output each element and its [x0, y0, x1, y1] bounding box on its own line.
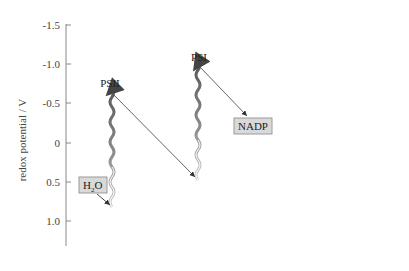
psi-excitation-wave [196, 64, 200, 180]
tick-label: 0.5 [46, 176, 60, 188]
h2o-to-psii-arrow [97, 194, 110, 205]
psii-excitation-wave [110, 90, 114, 207]
psii-label: PSII [100, 77, 120, 89]
nadp-label: NADP [238, 120, 268, 132]
psi-to-nadp-arrow [200, 67, 247, 116]
tick-label: 1.0 [46, 215, 60, 227]
y-axis-title: redox potential / V [16, 99, 28, 182]
tick-label: -1.0 [43, 58, 61, 70]
nadp-box: NADP [234, 118, 272, 134]
tick-label: 0 [55, 137, 61, 149]
h2o-box: H2O [79, 177, 107, 194]
z-scheme-diagram: -1.5 -1.0 -0.5 0 0.5 1.0 redox potential… [0, 0, 409, 271]
tick-label: -1.5 [43, 19, 61, 31]
tick-label: -0.5 [43, 97, 61, 109]
y-axis: -1.5 -1.0 -0.5 0 0.5 1.0 redox potential… [16, 19, 71, 246]
psii-to-psi-arrow [112, 93, 195, 177]
psi-label: PSI [191, 51, 207, 63]
